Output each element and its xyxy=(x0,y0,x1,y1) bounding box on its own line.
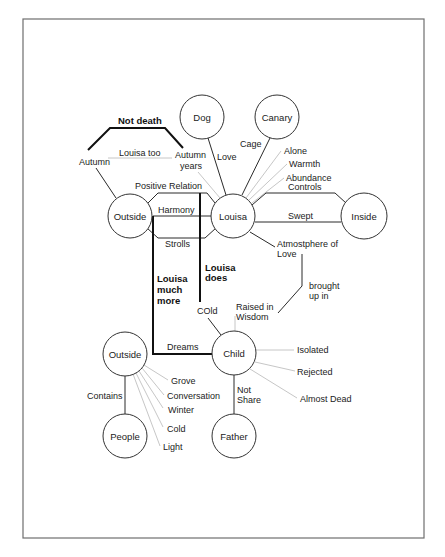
node-dog: Dog xyxy=(180,95,224,139)
label-louisa-much-2: much xyxy=(157,284,183,295)
node-inside-label: Inside xyxy=(351,211,376,222)
node-people: People xyxy=(103,414,147,458)
label-cold: Cold xyxy=(167,424,186,434)
node-outside-top: Outside xyxy=(108,194,152,238)
label-not-share-2: Share xyxy=(237,395,261,405)
node-child: Child xyxy=(212,331,256,375)
node-people-label: People xyxy=(110,431,140,442)
label-isolated: Isolated xyxy=(297,345,329,355)
node-father-label: Father xyxy=(220,431,247,442)
label-almost-dead: Almost Dead xyxy=(300,394,352,404)
label-contains: Contains xyxy=(87,391,123,401)
label-raised-1: Raised in xyxy=(236,302,274,312)
node-child-label: Child xyxy=(223,348,245,359)
label-louisa-much-1: Louisa xyxy=(157,273,188,284)
concept-map: Dog Canary Outside Louisa Inside Outside… xyxy=(0,0,445,557)
label-louisa-much-3: more xyxy=(157,295,180,306)
label-dreams: Dreams xyxy=(167,342,199,352)
label-alone: Alone xyxy=(284,146,307,156)
label-autumn-years-2: years xyxy=(180,161,203,171)
label-swept: Swept xyxy=(288,211,314,221)
label-strolls: Strolls xyxy=(165,239,191,249)
label-not-share-1: Not xyxy=(237,385,252,395)
node-canary: Canary xyxy=(255,95,299,139)
label-brought-1: brought xyxy=(309,281,340,291)
node-louisa: Louisa xyxy=(211,194,255,238)
label-winter: Winter xyxy=(168,405,194,415)
node-canary-label: Canary xyxy=(262,112,293,123)
label-light: Light xyxy=(163,442,183,452)
label-love: Love xyxy=(217,152,237,162)
label-controls: Controls xyxy=(288,182,322,192)
label-rejected: Rejected xyxy=(297,367,333,377)
label-warmth: Warmth xyxy=(289,159,320,169)
node-father: Father xyxy=(212,414,256,458)
label-raised-2: Wisdom xyxy=(236,312,269,322)
label-cold-child: COld xyxy=(197,306,218,316)
label-louisa-too: Louisa too xyxy=(119,148,161,158)
node-dog-label: Dog xyxy=(193,112,210,123)
label-conversation: Conversation xyxy=(167,391,220,401)
label-louisa-does-2: does xyxy=(205,272,227,283)
label-positive-relation: Positive Relation xyxy=(135,181,202,191)
label-atmosphere-2: Love xyxy=(277,249,297,259)
node-louisa-label: Louisa xyxy=(219,211,248,222)
label-harmony: Harmony xyxy=(158,205,195,215)
label-atmosphere-1: Atmostphere of xyxy=(277,239,339,249)
label-brought-2: up in xyxy=(309,291,329,301)
label-not-death: Not death xyxy=(118,115,162,126)
label-grove: Grove xyxy=(171,376,196,386)
label-autumn-years-1: Autumn xyxy=(175,150,206,160)
node-outside-bottom: Outside xyxy=(103,332,147,376)
label-autumn: Autumn xyxy=(79,157,110,167)
label-cage: Cage xyxy=(240,139,262,149)
node-inside: Inside xyxy=(341,193,387,239)
node-outside-bottom-label: Outside xyxy=(109,349,142,360)
node-outside-top-label: Outside xyxy=(114,211,147,222)
